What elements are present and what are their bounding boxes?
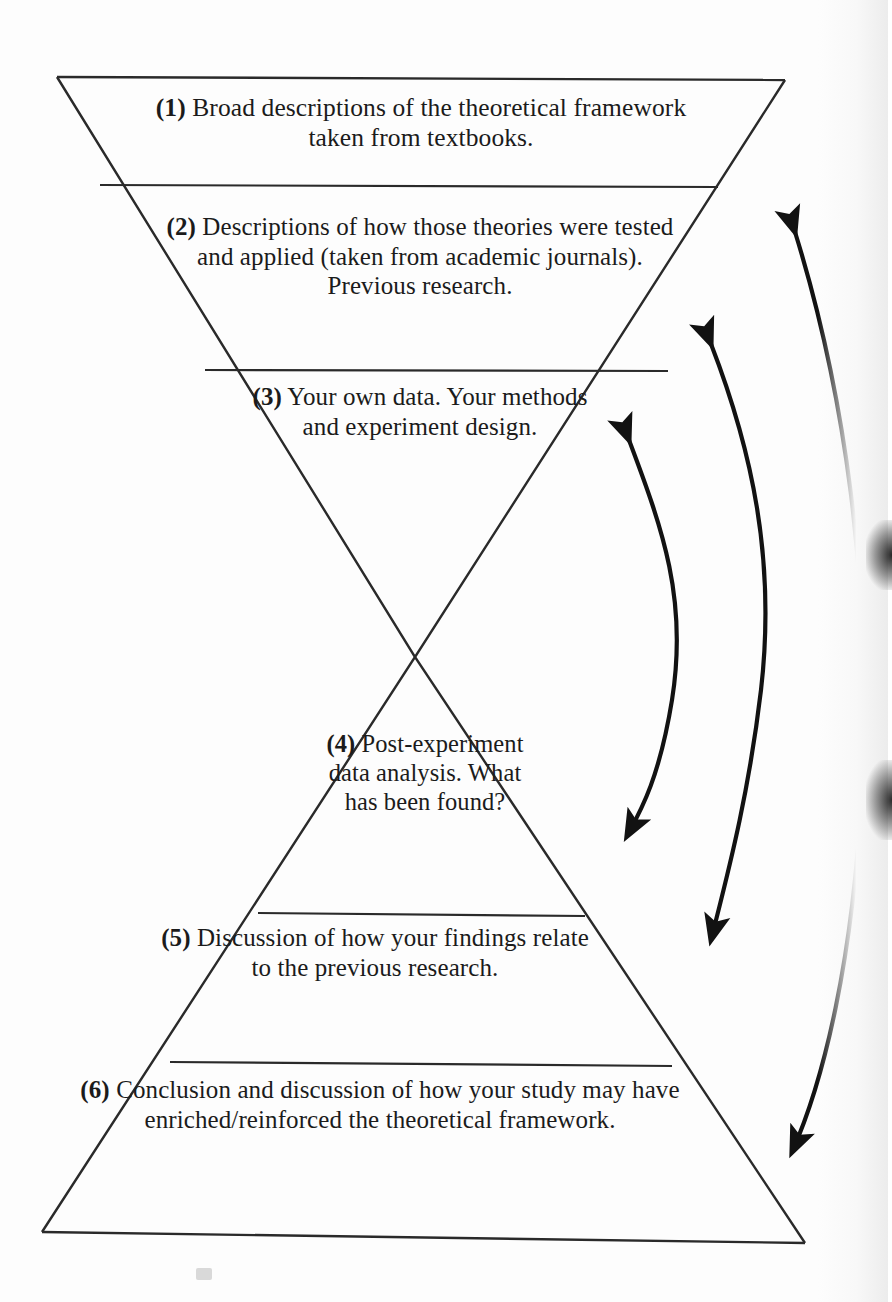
divider-2-3 xyxy=(205,370,668,371)
section-6-text: (6) Conclusion and discussion of how you… xyxy=(70,1075,690,1134)
section-6-body: Conclusion and discussion of how your st… xyxy=(116,1076,679,1133)
section-2-body: Descriptions of how those theories were … xyxy=(197,213,673,299)
divider-1-2 xyxy=(100,185,718,187)
section-2-number: (2) xyxy=(167,213,196,240)
arrow-section1-to-section6 xyxy=(792,232,864,1152)
section-4-body: Post-experiment data analysis. What has … xyxy=(329,730,524,815)
section-4-text: (4) Post-experiment data analysis. What … xyxy=(310,730,540,817)
section-2-text: (2) Descriptions of how those theories w… xyxy=(160,212,680,301)
arrow-section2-to-section5 xyxy=(711,344,765,940)
section-5-text: (5) Discussion of how your findings rela… xyxy=(160,923,590,982)
section-1-body: Broad descriptions of the theoretical fr… xyxy=(192,93,686,152)
section-5-body: Discussion of how your findings relate t… xyxy=(197,924,589,981)
section-5-number: (5) xyxy=(161,924,190,951)
section-6-number: (6) xyxy=(80,1076,109,1103)
section-1-number: (1) xyxy=(156,93,186,122)
divider-4-5 xyxy=(258,913,585,916)
section-3-body: Your own data. Your methods and experime… xyxy=(287,383,587,440)
divider-5-6 xyxy=(170,1062,672,1066)
section-3-number: (3) xyxy=(252,383,281,410)
section-3-text: (3) Your own data. Your methods and expe… xyxy=(245,382,595,441)
arrow-section3-to-section4 xyxy=(627,440,677,836)
section-1-text: (1) Broad descriptions of the theoretica… xyxy=(126,93,716,153)
section-4-number: (4) xyxy=(326,730,355,757)
